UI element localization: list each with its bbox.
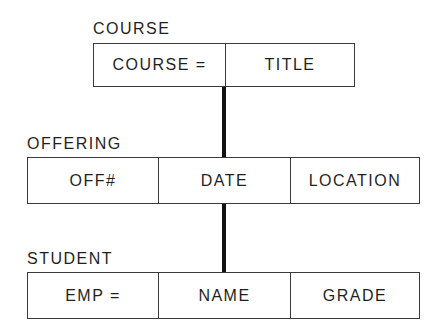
field-course-number: COURSE = — [94, 44, 225, 86]
course-offering-link — [222, 86, 226, 158]
segment-label-offering: OFFERING — [27, 136, 122, 152]
segment-offering: OFF# DATE LOCATION — [27, 157, 420, 204]
field-emp-number: EMP = — [28, 273, 158, 318]
segment-label-course: COURSE — [93, 21, 170, 37]
field-grade: GRADE — [290, 273, 419, 318]
field-title: TITLE — [225, 44, 354, 86]
field-date: DATE — [158, 158, 290, 203]
offering-student-link — [222, 203, 226, 273]
segment-label-student: STUDENT — [27, 251, 113, 267]
field-location: LOCATION — [290, 158, 419, 203]
field-off-number: OFF# — [28, 158, 158, 203]
segment-course: COURSE = TITLE — [93, 43, 355, 87]
segment-student: EMP = NAME GRADE — [27, 272, 420, 319]
field-name: NAME — [158, 273, 290, 318]
